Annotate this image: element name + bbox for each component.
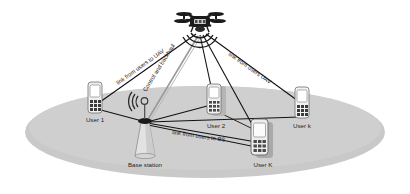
user-K-phone-keypad-icon	[254, 140, 266, 152]
ground-plane-highlight	[29, 86, 381, 170]
user-k-label: User k	[293, 122, 312, 129]
user-1[interactable]: User 1	[86, 82, 105, 123]
user-1-phone-screen	[90, 85, 100, 97]
user-K-phone-screen	[254, 123, 266, 137]
base-station-mast	[144, 105, 145, 119]
user-2-phone-screen	[209, 87, 219, 98]
user-k[interactable]: User k	[293, 87, 312, 129]
user-2-label: User 2	[207, 122, 226, 129]
user-1-label: User 1	[86, 116, 105, 123]
uav-sensor-bar-2	[199, 20, 202, 23]
user-K-label: User K	[254, 161, 274, 168]
uav-antenna-dome	[195, 26, 205, 32]
diagram-canvas: User 1 User 2 User K User	[0, 0, 410, 194]
uav-sensor-bar-1	[195, 20, 198, 23]
user-1-phone-keypad-icon	[90, 100, 101, 111]
user-K[interactable]: User K	[251, 119, 273, 168]
user-2[interactable]: User 2	[207, 84, 226, 129]
user-k-phone-keypad-icon	[297, 105, 308, 116]
user-2-phone-keypad-icon	[209, 101, 220, 112]
base-station-base	[135, 153, 155, 158]
uav-sensor-bar-3	[203, 20, 206, 23]
base-station-label: Base station	[128, 161, 163, 168]
user-k-phone-screen	[297, 90, 307, 102]
